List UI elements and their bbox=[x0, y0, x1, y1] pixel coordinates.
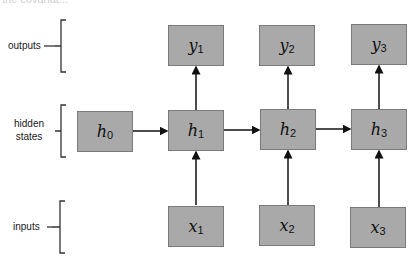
node-y2: y2 bbox=[259, 25, 315, 66]
node-var: x bbox=[279, 216, 288, 235]
node-x1: x1 bbox=[168, 206, 224, 247]
node-var: h bbox=[371, 120, 381, 139]
node-var: h bbox=[97, 122, 107, 141]
node-y3: y3 bbox=[351, 24, 407, 65]
node-var: y bbox=[371, 35, 380, 54]
hidden-states-label: hidden states bbox=[14, 117, 44, 143]
node-sub: 3 bbox=[381, 127, 387, 139]
node-h0: h0 bbox=[77, 111, 133, 152]
node-sub: 0 bbox=[107, 129, 113, 141]
node-var: x bbox=[370, 218, 379, 237]
node-y1: y1 bbox=[168, 25, 224, 66]
node-var: x bbox=[188, 217, 197, 236]
node-var: h bbox=[188, 121, 198, 140]
hidden-bracket bbox=[55, 105, 66, 157]
node-var: h bbox=[280, 120, 290, 139]
outputs-label: outputs bbox=[8, 39, 41, 52]
node-sub: 1 bbox=[198, 128, 204, 140]
node-var: y bbox=[188, 36, 197, 55]
node-h1: h1 bbox=[168, 110, 224, 151]
node-sub: 2 bbox=[290, 127, 296, 139]
node-h2: h2 bbox=[260, 109, 316, 150]
node-sub: 1 bbox=[197, 224, 203, 236]
node-sub: 3 bbox=[379, 225, 385, 237]
node-sub: 3 bbox=[380, 42, 386, 54]
hidden-label-line2: states bbox=[14, 130, 44, 143]
node-h3: h3 bbox=[351, 109, 407, 150]
node-x2: x2 bbox=[259, 205, 315, 246]
node-sub: 2 bbox=[288, 223, 294, 235]
inputs-label: inputs bbox=[13, 220, 40, 233]
hidden-label-line1: hidden bbox=[14, 117, 44, 130]
node-sub: 2 bbox=[288, 43, 294, 55]
outputs-bracket bbox=[55, 20, 66, 72]
node-x3: x3 bbox=[350, 207, 406, 248]
inputs-bracket bbox=[52, 201, 65, 253]
node-sub: 1 bbox=[197, 43, 203, 55]
node-var: y bbox=[279, 36, 288, 55]
